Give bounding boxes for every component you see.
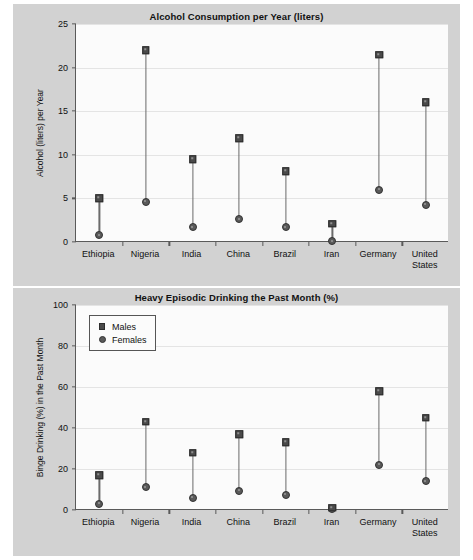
data-point-male [329, 220, 337, 228]
gridline [76, 24, 448, 25]
gridline [76, 305, 448, 306]
data-point-male [189, 155, 197, 163]
x-tick-mark [122, 242, 123, 246]
x-tick-label: United States [401, 517, 448, 539]
y-tick-label: 40 [58, 423, 68, 433]
data-point-female [189, 223, 197, 231]
y-tick-label: 80 [58, 341, 68, 351]
circle-marker-icon [95, 336, 109, 343]
gridline [76, 111, 448, 112]
data-point-female [95, 231, 103, 239]
legend-label-females: Females [112, 335, 147, 345]
y-tick-label: 10 [58, 150, 68, 160]
y-tick-label: 60 [58, 382, 68, 392]
x-tick-label: Ethiopia [75, 517, 122, 528]
data-point-female [235, 487, 243, 495]
y-axis-label-binge: Binge Drinking (%) in the Past Month [35, 305, 45, 510]
y-tick-mark [72, 23, 76, 24]
x-tick-mark [402, 242, 403, 246]
x-tick-mark [355, 242, 356, 246]
data-point-male [96, 471, 104, 479]
y-tick-mark [72, 154, 76, 155]
data-point-male [375, 387, 383, 395]
y-tick-mark [72, 241, 76, 242]
data-point-male [282, 439, 290, 447]
x-tick-mark [308, 510, 309, 514]
x-tick-mark [122, 510, 123, 514]
y-tick-label: 25 [58, 19, 68, 29]
gridline [76, 469, 448, 470]
data-point-female [282, 491, 290, 499]
x-tick-mark [215, 510, 216, 514]
stem-line [145, 422, 146, 488]
square-marker-icon [95, 323, 109, 330]
y-tick-label: 0 [63, 505, 68, 515]
data-point-male [422, 99, 430, 107]
x-tick-label: Ethiopia [75, 249, 122, 260]
stem-line [239, 434, 240, 490]
legend: Males Females [89, 315, 156, 351]
stem-line [239, 138, 240, 219]
y-tick-label: 5 [63, 193, 68, 203]
stem-line [145, 50, 146, 202]
x-tick-label: India [168, 249, 215, 260]
data-point-male [329, 504, 337, 512]
y-axis-label-alcohol: Alcohol (liters) per Year [35, 24, 45, 242]
data-point-female [375, 461, 383, 469]
data-point-female [189, 494, 197, 502]
x-tick-label: United States [401, 249, 448, 271]
y-tick-mark [72, 304, 76, 305]
chart-title-binge: Heavy Episodic Drinking the Past Month (… [13, 292, 460, 303]
data-point-male [142, 46, 150, 54]
data-point-female [422, 201, 430, 209]
x-tick-label: Iran [308, 517, 355, 528]
stem-line [285, 442, 286, 494]
x-tick-label: Germany [355, 517, 402, 528]
stem-line [192, 159, 193, 227]
stem-line [378, 391, 379, 465]
y-tick-mark [72, 427, 76, 428]
x-tick-mark [308, 242, 309, 246]
gridline [76, 428, 448, 429]
y-tick-label: 15 [58, 106, 68, 116]
data-point-male [189, 449, 197, 457]
y-tick-label: 0 [63, 237, 68, 247]
y-tick-mark [72, 468, 76, 469]
x-tick-mark [262, 510, 263, 514]
data-point-female [95, 500, 103, 508]
alcohol-consumption-figure: Alcohol Consumption per Year (liters) Al… [13, 4, 460, 286]
x-tick-mark [169, 242, 170, 246]
data-point-female [235, 215, 243, 223]
x-tick-mark [355, 510, 356, 514]
legend-item-males: Males [95, 320, 147, 333]
y-tick-label: 100 [53, 300, 68, 310]
x-tick-label: Germany [355, 249, 402, 260]
data-point-male [96, 195, 104, 203]
x-tick-mark [215, 242, 216, 246]
x-tick-label: Nigeria [122, 249, 169, 260]
legend-item-females: Females [95, 333, 147, 346]
stem-line [192, 453, 193, 498]
y-tick-mark [72, 509, 76, 510]
data-point-male [235, 430, 243, 438]
x-tick-label: Brazil [262, 517, 309, 528]
stem-line [378, 55, 379, 190]
data-point-male [375, 51, 383, 59]
chart-title-alcohol: Alcohol Consumption per Year (liters) [13, 11, 460, 22]
data-point-female [142, 198, 150, 206]
stem-line [99, 198, 100, 235]
x-tick-mark [402, 510, 403, 514]
y-tick-label: 20 [58, 63, 68, 73]
data-point-female [328, 237, 336, 245]
x-tick-label: China [215, 249, 262, 260]
x-tick-label: India [168, 517, 215, 528]
data-point-female [282, 223, 290, 231]
gridline [76, 68, 448, 69]
stem-line [425, 418, 426, 482]
binge-drinking-figure: Heavy Episodic Drinking the Past Month (… [13, 288, 460, 556]
data-point-female [375, 186, 383, 194]
y-tick-mark [72, 198, 76, 199]
y-tick-label: 20 [58, 464, 68, 474]
x-tick-label: China [215, 517, 262, 528]
y-tick-mark [72, 386, 76, 387]
